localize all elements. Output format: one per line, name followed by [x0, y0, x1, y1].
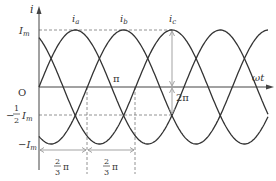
- spacing-label-2: 2 3 π: [103, 157, 118, 177]
- two-pi-label: 2π: [176, 92, 189, 103]
- svg-text:2: 2: [14, 116, 19, 125]
- spacing-label-1: 2 3 π: [54, 157, 69, 177]
- half-neg-level-label: − 1 2 Im: [6, 104, 33, 125]
- guide-lines: [39, 30, 172, 174]
- svg-text:π: π: [63, 162, 69, 172]
- svg-text:3: 3: [104, 168, 109, 177]
- min-level-label: −Im: [18, 139, 37, 152]
- svg-text:2: 2: [55, 157, 60, 166]
- svg-text:2: 2: [104, 157, 109, 166]
- y-axis-arrow-icon: [37, 6, 42, 14]
- curve-label-ib: ib: [120, 13, 128, 26]
- origin-label: O: [18, 87, 26, 98]
- y-axis-label: i: [30, 3, 34, 16]
- amplitude-arrow: [170, 31, 175, 114]
- x-axis-arrow-icon: [266, 85, 274, 90]
- axes: [39, 10, 270, 170]
- svg-text:1: 1: [14, 104, 19, 113]
- svg-text:3: 3: [55, 168, 60, 177]
- svg-text:π: π: [112, 162, 118, 172]
- x-axis-label: ωt: [252, 72, 265, 83]
- max-level-label: Im: [18, 25, 30, 38]
- three-phase-waveform-diagram: i ωt O Im − 1 2 Im −Im ia ib ic π 2π 2 3…: [0, 0, 276, 181]
- svg-text:Im: Im: [21, 110, 33, 123]
- pi-label: π: [113, 73, 120, 84]
- curve-label-ia: ia: [72, 13, 79, 26]
- curve-label-ic: ic: [169, 13, 176, 26]
